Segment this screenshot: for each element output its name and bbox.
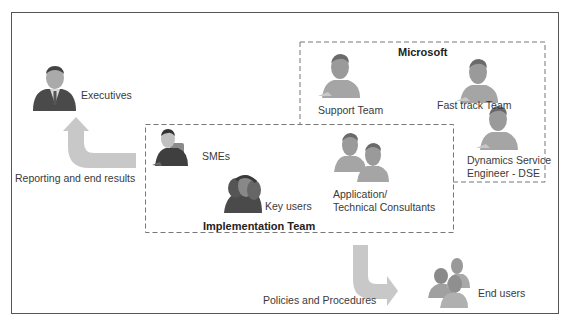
implementation-group-boundary (146, 125, 454, 233)
key-users-label: Key users (265, 200, 312, 213)
smes-label: SMEs (202, 150, 230, 163)
reporting-flow-label: Reporting and end results (15, 172, 135, 185)
dse-user-icon (476, 106, 518, 150)
consultants-label-line1: Application/ (333, 188, 387, 201)
policies-flow-label: Policies and Procedures (263, 294, 376, 307)
dse-label-line2: Engineer - DSE (467, 167, 540, 180)
executive-icon (33, 66, 76, 111)
key-users-group-icon (224, 175, 262, 213)
fast-track-team-user-icon (456, 59, 498, 103)
consultants-two-users-icon (334, 133, 389, 182)
end-users-group-icon (428, 258, 470, 308)
support-team-label: Support Team (318, 104, 383, 117)
microsoft-group-title: Microsoft (398, 46, 448, 58)
fast-track-team-label: Fast track Team (437, 99, 512, 112)
end-users-label: End users (478, 287, 525, 300)
reporting-arrow-icon (63, 117, 136, 168)
implementation-group-title: Implementation Team (203, 220, 315, 232)
smes-business-user-icon (152, 129, 188, 166)
dse-label-line1: Dynamics Service (467, 154, 551, 167)
consultants-label-line2: Technical Consultants (333, 201, 435, 214)
executives-label: Executives (81, 89, 132, 102)
support-team-user-icon (318, 54, 360, 98)
